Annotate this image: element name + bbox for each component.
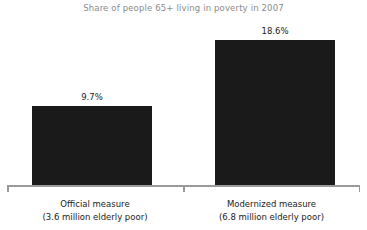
category-label-official-measure-sub: (3.6 million elderly poor) <box>7 211 183 224</box>
x-axis-tick-left <box>7 185 9 192</box>
category-label-modernized-measure-sub: (6.8 million elderly poor) <box>183 211 360 224</box>
bar-value-modernized-measure: 18.6% <box>215 26 335 36</box>
category-label-official-measure: Official measure (3.6 million elderly po… <box>7 198 183 224</box>
bar-modernized-measure <box>215 40 335 185</box>
plot-area: 9.7% 18.6% Official measure (3.6 million… <box>0 0 367 230</box>
category-label-modernized-measure: Modernized measure (6.8 million elderly … <box>183 198 360 224</box>
x-axis-tick-right <box>359 185 361 192</box>
category-label-modernized-measure-main: Modernized measure <box>227 199 316 209</box>
bar-chart: Share of people 65+ living in poverty in… <box>0 0 367 230</box>
x-axis-tick-center <box>183 185 185 192</box>
category-label-official-measure-main: Official measure <box>60 199 129 209</box>
bar-value-official-measure: 9.7% <box>32 92 152 102</box>
bar-official-measure <box>32 106 152 185</box>
